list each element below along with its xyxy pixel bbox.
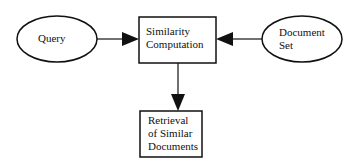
retrieval-label-line2: of Similar: [148, 127, 198, 140]
retrieval-label: Retrieval of Similar Documents: [148, 114, 198, 153]
edge-similarity-to-retrieval: [171, 63, 185, 111]
edge-document-to-similarity: [216, 32, 262, 46]
document-set-label: Document Set: [279, 26, 325, 52]
similarity-label: Similarity Computation: [146, 25, 203, 51]
retrieval-label-line1: Retrieval: [148, 114, 198, 127]
similarity-label-line2: Computation: [146, 38, 203, 51]
edge-query-to-similarity: [97, 32, 139, 46]
arrowhead-icon: [216, 32, 233, 46]
arrowhead-icon: [122, 32, 139, 46]
arrowhead-icon: [171, 94, 185, 111]
query-label: Query: [38, 32, 66, 45]
retrieval-label-line3: Documents: [148, 140, 198, 153]
document-set-label-line2: Set: [279, 39, 325, 52]
document-set-label-line1: Document: [279, 26, 325, 39]
similarity-label-line1: Similarity: [146, 25, 203, 38]
